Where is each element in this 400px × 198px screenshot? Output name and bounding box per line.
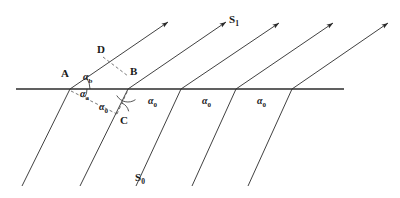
point-label-B: B (130, 66, 137, 77)
angle-label-alpha-b: αb (83, 72, 92, 85)
ray-4-refracted (236, 23, 333, 89)
segment-D-B (103, 57, 128, 76)
ray-label-s0: S0 (135, 172, 145, 186)
point-label-C: C (120, 115, 128, 126)
ray-4-incident (192, 89, 236, 186)
point-label-A: A (61, 68, 69, 79)
ray-3-refracted (181, 23, 279, 89)
ray-5-incident (248, 89, 292, 186)
arc-alpha-0-at-C (122, 103, 129, 111)
angle-label-alpha-0-second: α0 (202, 96, 211, 109)
ray-2-refracted (128, 22, 226, 89)
arc-at-B (117, 96, 136, 103)
angle-label-alpha-a: αa (80, 89, 89, 102)
diagram-canvas (0, 0, 400, 198)
angle-label-alpha-0-third: α0 (257, 96, 266, 109)
ray-1-incident (22, 89, 70, 186)
ray-5-refracted (292, 23, 388, 89)
point-label-D: D (97, 44, 105, 55)
ray-label-s1: S1 (229, 14, 239, 28)
refraction-diagram: A B C D αb αa α0 α0 α0 α0 S1 S0 (0, 0, 400, 198)
segment-A-C (71, 91, 117, 114)
angle-label-alpha-0-near-c: α0 (99, 102, 108, 115)
angle-label-alpha-0-first: α0 (148, 96, 157, 109)
